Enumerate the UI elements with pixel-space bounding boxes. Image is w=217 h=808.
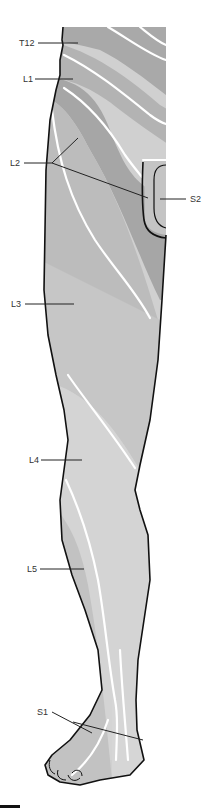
label-s2: S2 [190,194,201,204]
label-l5: L5 [27,564,37,574]
label-l3: L3 [11,299,21,309]
label-l1: L1 [23,74,33,84]
label-l2: L2 [10,158,20,168]
label-s1: S1 [37,707,48,717]
label-l4: L4 [29,455,39,465]
dermatome-regions [0,0,217,808]
dermatome-diagram: T12 L1 L2 S2 L3 L4 L5 S1 [0,0,217,808]
label-t12: T12 [19,38,35,48]
